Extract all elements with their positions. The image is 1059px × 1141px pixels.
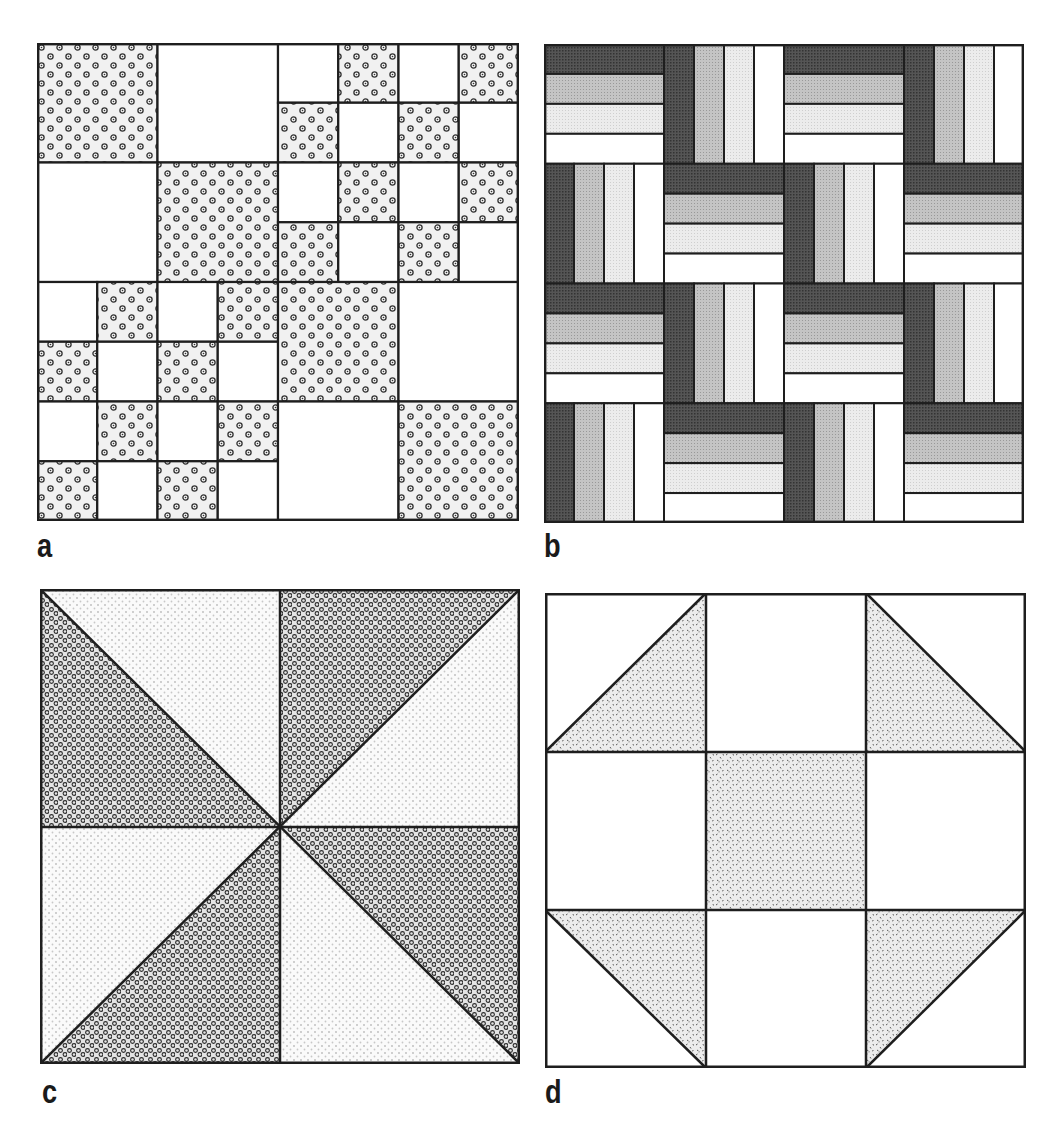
quilt-block-d <box>545 593 1026 1068</box>
panel-a-checkerboard-quilt <box>37 43 519 521</box>
quilt-block-a <box>37 43 519 521</box>
panel-label-a: a <box>37 528 52 562</box>
quilt-block-c <box>40 589 520 1064</box>
shoofly-pieces <box>545 593 1026 1068</box>
panel-label-c: c <box>42 1074 57 1108</box>
panel-label-d: d <box>545 1074 562 1108</box>
panel-label-b: b <box>544 528 561 562</box>
quilt-block-b <box>544 44 1024 523</box>
panel-c-pinwheel-quilt <box>40 589 520 1064</box>
panel-b-rail-fence-quilt <box>544 44 1024 523</box>
panel-d-shoofly-quilt <box>545 593 1026 1068</box>
